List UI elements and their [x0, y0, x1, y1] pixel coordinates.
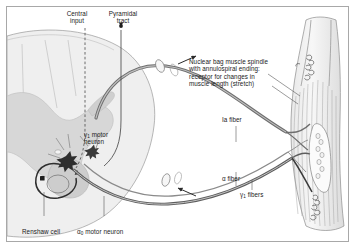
gamma-subscript: 1 — [87, 134, 90, 139]
label-renshaw-cell: Renshaw cell — [22, 228, 60, 235]
spindle-note-line-3: receptor for changes in — [189, 73, 268, 80]
label-gamma-fibers: γ1 fibers — [240, 191, 263, 198]
label-pyramidal-tract: Pyramidal tract — [100, 10, 146, 25]
label-spindle-note: Nuclear bag muscle spindle with annulosp… — [189, 58, 268, 88]
skeletal-muscle-belly — [291, 17, 344, 231]
alpha-fiber-symbol: α — [222, 175, 226, 182]
gamma-motor-neuron-line-1: γ1 motor — [84, 131, 108, 138]
label-gamma-motor-neuron: γ1 motor neuron — [84, 131, 108, 146]
ventral-root-sheath-cuff — [161, 171, 183, 187]
gamma-motor-neuron-line-2: neuron — [84, 138, 108, 145]
gamma-fibers-word: fibers — [248, 191, 264, 198]
label-alpha-motor-neuron: α0 motor neuron — [77, 228, 123, 235]
spindle-note-line-4: muscle length (stretch) — [189, 80, 268, 87]
alpha-fiber-word: fiber — [228, 175, 241, 182]
spindle-note-line-1: Nuclear bag muscle spindle — [189, 58, 268, 65]
alpha-subscript: 0 — [81, 231, 84, 236]
label-ia-fiber: Ia fiber — [222, 116, 242, 123]
label-alpha-fiber: α fiber — [222, 175, 240, 182]
renshaw-synapse-terminal — [40, 176, 45, 181]
reflex-arc-figure: Central input Pyramidal tract Nuclear ba… — [0, 0, 356, 249]
label-central-input: Central input — [57, 10, 97, 25]
gamma-fibers-subscript: 1 — [243, 194, 246, 199]
gamma-motor-word: motor — [92, 131, 108, 138]
alpha-motor-neuron-words: motor neuron — [85, 228, 123, 235]
spindle-note-line-2: with annulospiral ending: — [189, 65, 268, 72]
diagram-artwork — [0, 0, 356, 249]
central-canal — [55, 150, 61, 154]
